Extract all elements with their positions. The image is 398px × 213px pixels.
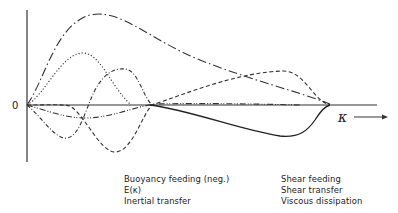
origin-label: 0 [12,100,18,111]
curve-viscous-dissipation [150,105,330,136]
curve-shear-feeding [27,53,130,105]
x-axis-label: κ [337,109,347,125]
arrow-right-icon [382,115,388,120]
curve-energy-spectrum [27,14,330,105]
curve-inertial-transfer [27,71,330,152]
chart-plot-area: 0 κ [0,0,398,213]
